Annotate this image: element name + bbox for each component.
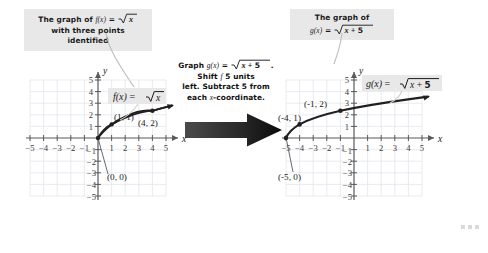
left-curve-sqrt-x — [98, 106, 172, 138]
right-curve-arrowhead — [423, 95, 430, 100]
svg-text:−2: −2 — [87, 157, 96, 167]
left-curve-arrowhead — [167, 104, 174, 109]
left-y-axis-arrowhead — [95, 72, 101, 78]
svg-text:3: 3 — [345, 98, 349, 108]
transition-arrow-icon — [185, 113, 283, 147]
corner-dot — [461, 225, 465, 229]
instruction-line2-suffix: 5 units — [223, 72, 255, 81]
svg-text:1: 1 — [89, 122, 93, 132]
right-x-axis-arrowhead — [428, 135, 434, 141]
radical-icon: x — [118, 13, 138, 24]
instruction-line2-prefix: Shift — [197, 72, 220, 81]
svg-text:−2: −2 — [66, 143, 75, 153]
svg-text:x: x — [128, 15, 133, 24]
right-point-label-m5-0: (-5, 0) — [278, 172, 301, 182]
left-curve-stroke — [98, 105, 172, 138]
svg-text:2: 2 — [89, 110, 93, 120]
right-point-m5-0 — [284, 136, 289, 141]
instruction-line1-function: g(x) — [207, 61, 219, 70]
right-function-label: g(x) = — [366, 78, 391, 90]
corner-dot — [475, 225, 479, 229]
callout-left-equals: = — [106, 15, 118, 24]
svg-text:−5: −5 — [25, 143, 34, 153]
right-y-axis-label: y — [358, 66, 364, 76]
callout-right-function: g(x) — [310, 26, 322, 35]
svg-text:−1: −1 — [343, 146, 352, 156]
svg-text:−3: −3 — [309, 143, 318, 153]
instruction-line1-equals: = — [219, 61, 231, 70]
svg-text:5: 5 — [345, 75, 349, 85]
instruction-line1-suffix: . — [271, 61, 274, 70]
svg-text:−2: −2 — [322, 143, 331, 153]
left-point-label-1-1: (1, 1) — [114, 112, 134, 122]
left-function-label: f(x) = — [113, 91, 135, 103]
svg-text:3: 3 — [89, 98, 93, 108]
figure-root: The graph of f(x) = x with three points … — [0, 0, 488, 253]
svg-text:1: 1 — [109, 143, 113, 153]
right-point-label-m4-1: (-4, 1) — [278, 113, 301, 123]
svg-text:−4: −4 — [39, 143, 49, 153]
callout-left-function: f(x) — [95, 15, 106, 24]
corner-dot — [468, 225, 472, 229]
svg-text:4: 4 — [406, 143, 411, 153]
left-origin-leader-line — [99, 140, 109, 174]
callout-left-prefix: The graph of — [38, 15, 95, 24]
svg-text:1: 1 — [345, 122, 349, 132]
callout-right-line1: The graph of — [296, 13, 388, 24]
left-point-4-2 — [150, 109, 154, 113]
corner-dots-decoration — [461, 225, 479, 229]
svg-text:2: 2 — [345, 110, 349, 120]
svg-text:−2: −2 — [343, 157, 352, 167]
svg-text:2: 2 — [123, 143, 127, 153]
callout-left-line1: The graph of f(x) = x — [30, 13, 146, 26]
svg-text:4: 4 — [89, 87, 94, 97]
svg-text:x + 5: x + 5 — [409, 79, 431, 90]
radical-icon: x + 5 — [231, 59, 271, 70]
svg-text:x: x — [155, 92, 161, 103]
svg-text:5: 5 — [420, 143, 424, 153]
svg-text:−1: −1 — [87, 146, 96, 156]
svg-text:−3: −3 — [53, 143, 62, 153]
left-graph-panel: −5 −4 −3 −2 −1 1 2 3 4 5 5 4 3 2 1 −1 −2… — [22, 62, 194, 204]
right-point-m1-2 — [338, 109, 343, 114]
svg-text:4: 4 — [150, 143, 155, 153]
right-y-axis-arrowhead — [351, 72, 357, 78]
svg-text:−5: −5 — [343, 192, 352, 202]
svg-text:3: 3 — [137, 143, 141, 153]
right-axes — [282, 72, 434, 200]
svg-text:2: 2 — [379, 143, 383, 153]
svg-text:−3: −3 — [343, 168, 352, 178]
left-y-axis-label: y — [102, 66, 108, 76]
svg-text:x + 5: x + 5 — [240, 61, 260, 70]
left-point-label-0-0: (0, 0) — [107, 172, 127, 182]
svg-text:−4: −4 — [87, 180, 97, 190]
left-point-label-4-2: (4, 2) — [138, 118, 158, 128]
svg-text:3: 3 — [393, 143, 397, 153]
svg-text:−4: −4 — [343, 180, 353, 190]
svg-text:4: 4 — [345, 87, 350, 97]
right-x-axis-label: x — [437, 134, 443, 144]
svg-text:5: 5 — [89, 75, 93, 85]
svg-text:5: 5 — [164, 143, 168, 153]
instruction-line4-suffix: -coordinate. — [213, 93, 265, 102]
left-point-1-1 — [109, 122, 113, 126]
svg-text:−5: −5 — [87, 192, 96, 202]
svg-text:−4: −4 — [295, 143, 305, 153]
svg-text:1: 1 — [365, 143, 369, 153]
left-x-axis-label: x — [181, 134, 187, 144]
right-point-label-m1-2: (-1, 2) — [304, 99, 327, 109]
left-point-0-0 — [96, 136, 100, 140]
left-x-axis-arrowhead — [172, 135, 178, 141]
svg-text:−3: −3 — [87, 168, 96, 178]
right-graph-panel: −5 −4 −3 −2 −1 1 2 3 4 5 5 4 3 2 1 −1 −2… — [278, 62, 460, 204]
